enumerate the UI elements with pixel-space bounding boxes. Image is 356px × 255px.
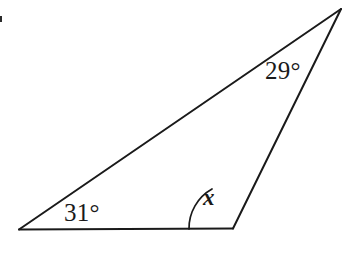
right-edge <box>233 9 341 229</box>
angle-label-top: 29° <box>265 58 301 83</box>
angle-label-left: 31° <box>64 200 100 225</box>
angle-label-unknown: x <box>203 186 215 209</box>
triangle-drawing <box>0 0 356 255</box>
geometry-figure: 31° 29° x <box>0 0 356 255</box>
base-edge <box>19 229 233 230</box>
long-edge <box>19 9 341 230</box>
